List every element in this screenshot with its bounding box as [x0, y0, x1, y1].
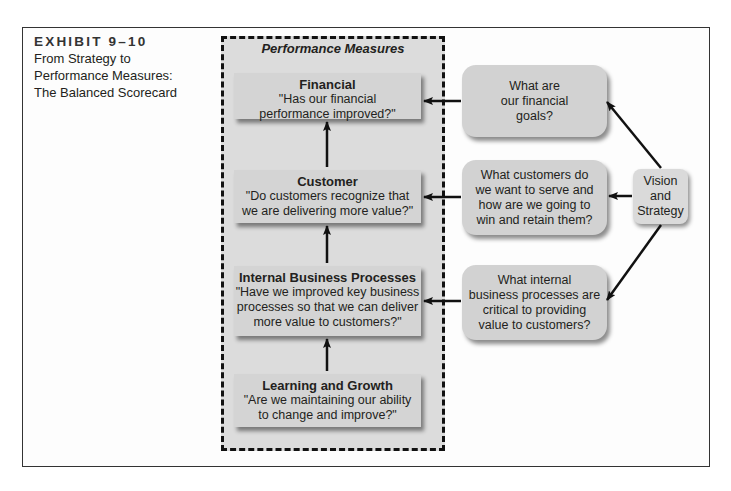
arrow-vision-to-financial-question	[607, 102, 661, 168]
connector-arrows	[0, 0, 731, 491]
arrow-vision-to-internal-question	[607, 225, 661, 300]
